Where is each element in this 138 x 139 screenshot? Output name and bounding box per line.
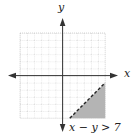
y-axis-arrow-down: [60, 124, 66, 132]
graph-canvas: [0, 0, 138, 139]
x-axis-arrow-right: [110, 73, 118, 79]
inequality-label: x − y > 7: [69, 121, 121, 134]
x-axis-label: x: [124, 67, 130, 80]
x-axis-arrow-left: [8, 73, 16, 79]
y-axis-arrow-up: [60, 18, 66, 26]
y-axis-label: y: [58, 1, 64, 14]
